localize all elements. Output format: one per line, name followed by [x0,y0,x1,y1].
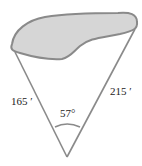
angle-label: 57° [60,107,75,119]
right-side-label: 215 ′ [110,85,132,97]
left-side-label: 165 ′ [11,95,33,107]
angle-arc [55,124,80,127]
triangle-diagram: 165 ′ 215 ′ 57° [0,0,142,166]
shaded-region [11,13,137,59]
